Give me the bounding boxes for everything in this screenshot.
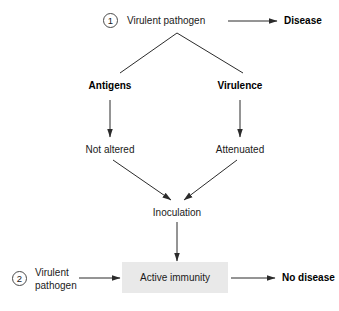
label-virulent-pathogen-1: Virulent pathogen xyxy=(127,15,205,27)
step-marker-1: 1 xyxy=(103,13,118,28)
branch-line-to-antigens xyxy=(120,33,177,73)
label-active-immunity: Active immunity xyxy=(140,272,210,284)
arrow-attenuated-to-inoculation xyxy=(184,160,237,200)
label-antigens: Antigens xyxy=(89,80,132,92)
label-no-disease: No disease xyxy=(282,272,335,284)
immunity-flow-diagram: 1 Virulent pathogen Disease Antigens Vir… xyxy=(0,0,339,311)
label-virulent-pathogen-2: Virulent pathogen xyxy=(35,266,79,292)
label-attenuated: Attenuated xyxy=(216,144,264,156)
label-inoculation: Inoculation xyxy=(153,207,201,219)
arrow-not-altered-to-inoculation xyxy=(113,160,171,200)
label-virulence: Virulence xyxy=(218,80,263,92)
label-disease: Disease xyxy=(284,15,322,27)
branch-line-to-virulence xyxy=(177,33,243,73)
label-not-altered: Not altered xyxy=(86,144,135,156)
step-marker-2: 2 xyxy=(12,271,27,286)
